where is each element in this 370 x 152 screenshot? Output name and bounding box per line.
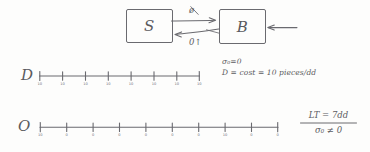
tick-label: 0 (118, 133, 120, 137)
tick-label: 10 (223, 133, 228, 137)
note-demand-cost: D = cost = 10 pieces/dd (222, 68, 316, 77)
formula-denominator: σ₀ ≠ 0 (300, 125, 357, 135)
notes-block: σ₀=0 D = cost = 10 pieces/dd (222, 57, 316, 77)
tick-label: 0 (198, 133, 200, 137)
tick-label: 0 (171, 133, 173, 137)
tick-label: 0 (277, 133, 279, 137)
tick-label: 0 (66, 133, 68, 137)
note-sigma-zero: σ₀=0 (222, 57, 316, 66)
tick-label: 10 (38, 133, 43, 137)
tick-label: 0 (145, 133, 147, 137)
tick-label: 0 (250, 133, 252, 137)
formula-numerator: LT = 7dd (300, 110, 357, 120)
whiteboard-sketch: S B (0, 0, 370, 152)
formula-block: LT = 7dd σ₀ ≠ 0 (300, 110, 357, 135)
tick-label: 0 (92, 133, 94, 137)
